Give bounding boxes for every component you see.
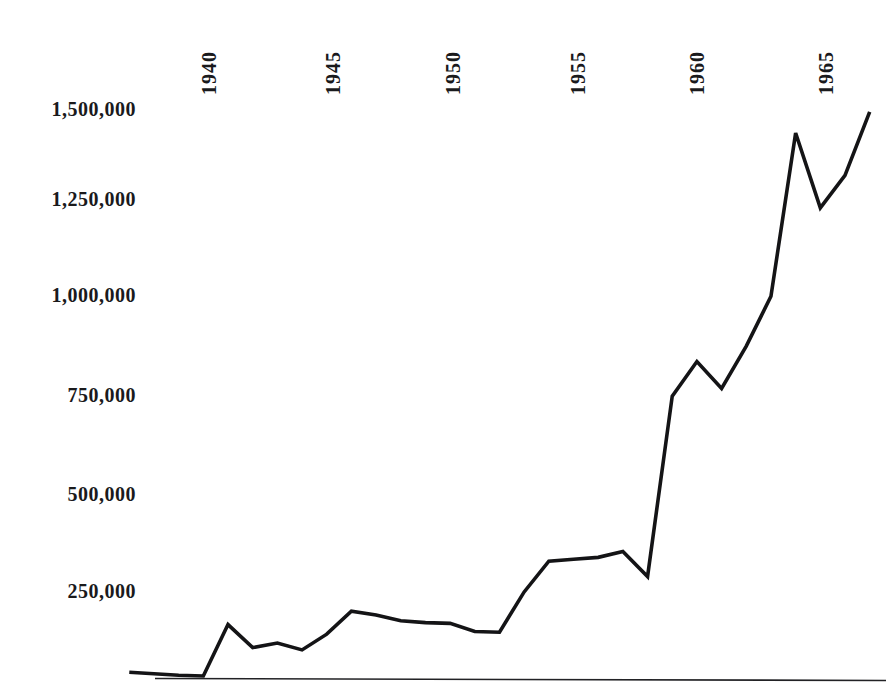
y-tick-label-1500000: 1,500,000: [0, 99, 136, 119]
x-axis-rule: [155, 679, 886, 681]
x-tick-label-1940: 1940: [199, 51, 219, 95]
y-tick-label-250000: 250,000: [0, 581, 136, 601]
x-tick-label-1955: 1955: [568, 51, 588, 95]
x-tick-label-1960: 1960: [687, 51, 707, 95]
y-tick-label-500000: 500,000: [0, 484, 136, 504]
y-tick-label-1250000: 1,250,000: [0, 189, 136, 209]
line-chart: 1,500,000 1,250,000 1,000,000 750,000 50…: [0, 0, 887, 684]
y-tick-label-750000: 750,000: [0, 385, 136, 405]
x-tick-label-1945: 1945: [323, 51, 343, 95]
y-tick-label-1000000: 1,000,000: [0, 285, 136, 305]
x-tick-label-1950: 1950: [443, 51, 463, 95]
x-tick-label-1965: 1965: [816, 51, 836, 95]
data-line-series-1: [129, 112, 869, 676]
